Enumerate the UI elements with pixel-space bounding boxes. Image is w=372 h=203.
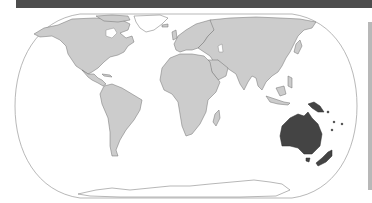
tasmania bbox=[306, 158, 310, 162]
vanuatu bbox=[333, 121, 335, 123]
world-map bbox=[0, 0, 372, 203]
fiji bbox=[341, 123, 343, 125]
philippines bbox=[288, 76, 292, 88]
new-caledonia bbox=[331, 129, 333, 131]
solomon-islands bbox=[327, 111, 329, 113]
uk bbox=[172, 30, 177, 40]
